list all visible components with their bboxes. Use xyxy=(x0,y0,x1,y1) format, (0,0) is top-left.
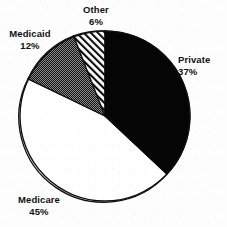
slice-label-medicare: Medicare 45% xyxy=(8,194,70,217)
slice-label-other: Other 6% xyxy=(68,4,124,27)
slice-label-private-percent: 37% xyxy=(178,66,226,78)
pie-chart-figure: Other 6% Medicaid 12% Private 37% Medica… xyxy=(0,0,227,227)
slice-label-medicare-percent: 45% xyxy=(8,206,70,218)
slice-label-other-name: Other xyxy=(83,4,109,15)
slice-label-medicare-name: Medicare xyxy=(18,194,60,205)
slice-label-private: Private 37% xyxy=(178,54,226,77)
slice-label-medicaid-percent: 12% xyxy=(2,40,58,52)
slice-label-other-percent: 6% xyxy=(68,16,124,28)
slice-label-medicaid: Medicaid 12% xyxy=(2,28,58,51)
slice-label-private-name: Private xyxy=(178,54,210,65)
slice-label-medicaid-name: Medicaid xyxy=(9,28,50,39)
